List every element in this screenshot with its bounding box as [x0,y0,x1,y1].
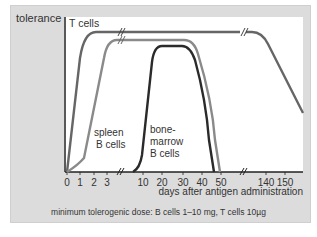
svg-text:marrow: marrow [150,136,184,147]
svg-text:bone-: bone- [150,124,176,135]
label-bone-marrow-b-cells: bone- marrow B cells [150,124,184,159]
chart-svg: 0 1 2 3 10 20 30 40 50 140 150 T cells s… [0,0,317,237]
svg-text:2: 2 [91,177,97,188]
label-t-cells: T cells [69,17,99,29]
svg-text:10: 10 [137,177,149,188]
figure-caption: minimum tolerogenic dose: B cells 1–10 m… [0,207,317,217]
series-t-cells [67,32,303,172]
label-spleen-b-cells: spleen B cells [94,127,125,150]
svg-text:spleen: spleen [94,127,123,138]
svg-text:3: 3 [104,177,110,188]
x-axis-label: days after antigen administration [158,186,303,197]
svg-text:0: 0 [64,177,70,188]
svg-text:1: 1 [77,177,83,188]
svg-text:B cells: B cells [96,139,125,150]
svg-text:B cells: B cells [150,148,179,159]
